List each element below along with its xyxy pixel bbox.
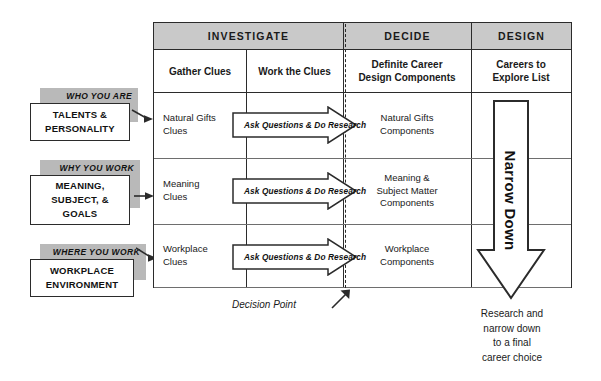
process-banner-row3: Ask Questions & Do Research [232, 238, 357, 276]
process-banner-row2-label: Ask Questions & Do Research [244, 172, 366, 210]
column-header-careers-to-explore-list: Careers to Explore List [471, 50, 571, 92]
cell-components-row1-line1: Natural Gifts [381, 112, 434, 123]
input-box-3-line2: ENVIRONMENT [46, 279, 118, 290]
input-box-2: MEANING, SUBJECT, & GOALS [30, 175, 130, 225]
process-banner-row2: Ask Questions & Do Research [232, 172, 357, 210]
decision-point-annotation: Decision Point [232, 299, 296, 310]
bottom-note-line3: to a final [493, 337, 531, 348]
bottom-note: Research and narrow down to a final care… [456, 307, 568, 365]
input-box-1-line1: TALENTS & [53, 109, 107, 120]
cell-components-row2-line3: Components [380, 197, 434, 208]
process-banner-row1: Ask Questions & Do Research [232, 106, 357, 144]
cell-components-row3-line1: Workplace [385, 243, 430, 254]
phase-header-investigate: INVESTIGATE [154, 23, 343, 50]
cell-gather-clues-row1-line2: Clues [163, 125, 187, 136]
process-banner-row1-label: Ask Questions & Do Research [244, 106, 366, 144]
column-header-work-the-clues: Work the Clues [246, 50, 343, 92]
cell-components-row1-line2: Components [380, 125, 434, 136]
input-box-1-line2: PERSONALITY [45, 123, 115, 134]
column-header-definite-career-design-components: Definite Career Design Components [343, 50, 471, 92]
narrow-down-arrow [476, 100, 546, 300]
cell-components-row2-line2: Subject Matter [376, 185, 437, 196]
process-banner-row3-label: Ask Questions & Do Research [244, 238, 366, 276]
decision-point-arrow-icon [330, 288, 354, 310]
cell-gather-clues-row2-line2: Clues [163, 191, 187, 202]
column-header-gather-clues: Gather Clues [154, 50, 246, 92]
input-box-3-line1: WORKPLACE [50, 265, 114, 276]
cell-gather-clues-row3-line2: Clues [163, 256, 187, 267]
input-box-2-line3: GOALS [63, 208, 98, 219]
bottom-note-line4: career choice [482, 352, 542, 363]
cell-gather-clues-row1-line1: Natural Gifts [163, 112, 216, 123]
column-header-c3-line1: Definite Career [371, 59, 442, 70]
input-box-2-line2: SUBJECT, & [51, 194, 108, 205]
input-box-2-line1: MEANING, [55, 180, 104, 191]
cell-components-row3-line2: Components [380, 256, 434, 267]
column-header-c3-line2: Design Components [358, 72, 455, 83]
phase-header-decide: DECIDE [343, 23, 471, 50]
column-divider-3 [471, 50, 472, 287]
cell-gather-clues-row3-line1: Workplace [163, 243, 208, 254]
column-header-c4-line2: Explore List [492, 72, 549, 83]
diagram-canvas: WHO YOU ARE TALENTS & PERSONALITY WHY YO… [0, 0, 601, 381]
phase-header-design: DESIGN [471, 23, 571, 50]
bottom-note-line2: narrow down [483, 323, 540, 334]
cell-gather-clues-row2-line1: Meaning [163, 178, 199, 189]
bottom-note-line1: Research and [481, 308, 543, 319]
column-header-c4-line1: Careers to [496, 59, 545, 70]
cell-components-row2-line1: Meaning & [384, 172, 429, 183]
input-box-3: WORKPLACE ENVIRONMENT [30, 259, 134, 297]
input-box-1: TALENTS & PERSONALITY [30, 103, 130, 141]
